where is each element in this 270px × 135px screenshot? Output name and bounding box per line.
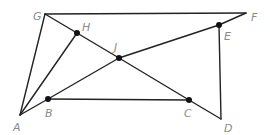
point-E xyxy=(216,22,222,28)
segment-GF xyxy=(45,13,246,14)
segment-AH xyxy=(20,33,77,115)
segment-EF xyxy=(219,13,246,25)
segment-HJ xyxy=(77,33,119,58)
point-H xyxy=(74,30,80,36)
segment-BJ xyxy=(48,58,119,99)
label-E: E xyxy=(224,30,231,43)
segment-CD xyxy=(189,100,221,119)
label-C: C xyxy=(184,107,192,120)
segment-JC xyxy=(119,58,189,100)
points-group xyxy=(45,22,222,103)
segment-JE xyxy=(119,25,219,58)
segments-group xyxy=(20,13,246,119)
point-B xyxy=(45,96,51,102)
segment-ED xyxy=(219,25,221,119)
point-C xyxy=(186,97,192,103)
point-J xyxy=(116,55,122,61)
label-G: G xyxy=(33,10,42,23)
segment-GA xyxy=(20,14,45,115)
label-J: J xyxy=(112,41,117,54)
label-D: D xyxy=(224,122,232,135)
segment-AB xyxy=(20,99,48,115)
label-F: F xyxy=(251,11,258,24)
geometry-diagram: A B C D E F G H J xyxy=(0,0,270,135)
label-H: H xyxy=(82,21,90,34)
segment-BC xyxy=(48,99,189,100)
label-A: A xyxy=(12,121,21,134)
segment-GH xyxy=(45,14,77,33)
label-B: B xyxy=(45,107,53,120)
